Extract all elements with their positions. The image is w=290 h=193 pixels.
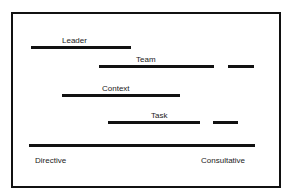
label-leader: Leader [62, 36, 87, 46]
task-range-line [108, 121, 200, 124]
context-range-line [62, 94, 180, 97]
task-range-extension [213, 121, 238, 124]
directive-consultative-axis [29, 144, 255, 147]
team-range-line [99, 65, 214, 68]
leader-range-line [31, 46, 131, 49]
team-range-extension [228, 65, 254, 68]
label-context: Context [102, 84, 130, 94]
label-team: Team [136, 55, 156, 65]
axis-label-consultative: Consultative [201, 156, 245, 166]
axis-label-directive: Directive [35, 156, 66, 166]
label-task: Task [151, 111, 167, 121]
